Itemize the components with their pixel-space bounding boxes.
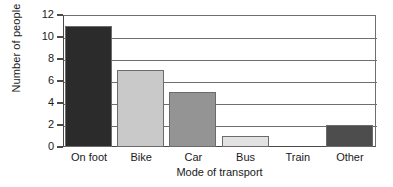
y-axis-tick-label: 0: [14, 141, 54, 152]
bar-series: [63, 15, 376, 147]
bar: [169, 92, 216, 147]
bar: [65, 26, 112, 147]
bar-slot: [167, 15, 219, 147]
y-axis-tick-label: 2: [14, 119, 54, 130]
y-axis-tick-label: 4: [14, 97, 54, 108]
bar: [117, 70, 164, 147]
bar-slot: [115, 15, 167, 147]
bar-slot: [324, 15, 376, 147]
y-axis-tick-label: 8: [14, 53, 54, 64]
bar-slot: [63, 15, 115, 147]
x-axis-tick-label: Bike: [115, 150, 167, 164]
bar: [326, 125, 373, 147]
x-axis-tick-label: Car: [167, 150, 219, 164]
bar-slot: [220, 15, 272, 147]
bar: [222, 136, 269, 147]
x-axis-tick-label: Bus: [220, 150, 272, 164]
x-axis-tick-labels: On footBikeCarBusTrainOther: [63, 150, 376, 166]
y-axis-tick-label: 10: [14, 31, 54, 42]
bar-chart: Number of people 024681012 On footBikeCa…: [0, 0, 393, 187]
x-axis-tick-label: Other: [324, 150, 376, 164]
y-axis-tick-label: 6: [14, 75, 54, 86]
bar-slot: [272, 15, 324, 147]
x-axis-tick-label: On foot: [63, 150, 115, 164]
x-axis-title: Mode of transport: [63, 166, 376, 179]
y-axis-tick-label: 12: [14, 9, 54, 20]
x-axis-tick-label: Train: [272, 150, 324, 164]
